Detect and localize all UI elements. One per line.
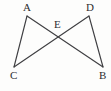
vertex-label-E: E	[54, 19, 61, 30]
vertex-label-D: D	[86, 2, 94, 13]
vertex-label-A: A	[23, 2, 31, 13]
geometry-figure: A D E C B	[0, 0, 111, 91]
vertex-label-C: C	[10, 70, 17, 81]
vertex-label-B: B	[99, 70, 106, 81]
